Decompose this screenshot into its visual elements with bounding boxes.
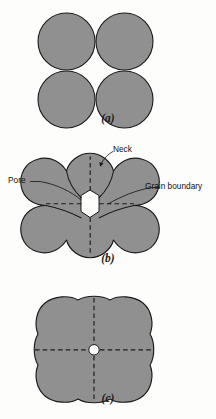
caption-c: (c) <box>0 392 216 404</box>
label-pore: Pore <box>8 176 26 184</box>
pore-diamond <box>81 190 99 218</box>
label-grain-boundary: Grain boundary <box>145 182 202 190</box>
caption-a: (a) <box>0 112 216 124</box>
particle-top-right <box>96 13 153 70</box>
caption-b: (b) <box>0 252 216 264</box>
pore-circle <box>89 345 99 355</box>
particle-top-left <box>38 13 95 70</box>
sintering-stages-figure: (a) <box>0 0 216 419</box>
label-neck: Neck <box>113 145 132 153</box>
